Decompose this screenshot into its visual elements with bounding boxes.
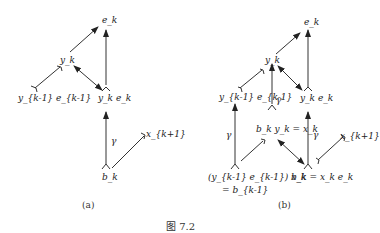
node-ykek-b: y_k e_k xyxy=(300,94,333,103)
line-yk1ek1-yk-b xyxy=(240,70,262,88)
node-bk-eq-b: b_k = x_k e_k xyxy=(291,173,353,182)
caption-b: (b) xyxy=(278,200,291,210)
split-bk-b xyxy=(304,164,312,169)
line-left-bottom-to-tick-b xyxy=(241,141,263,161)
split-ykek-a xyxy=(102,87,110,91)
node-xk1-a: x_{k+1} xyxy=(146,130,186,139)
split-bkyk-b xyxy=(268,105,276,110)
figure-caption: 图 7.2 xyxy=(166,218,195,233)
arrow-yk-to-ek-a xyxy=(70,27,98,52)
split-ykek-b xyxy=(304,87,312,91)
caption-a: (a) xyxy=(82,200,94,210)
line-yk1ek1-yk-a xyxy=(35,67,60,88)
arrow-yk-to-ek-b xyxy=(276,33,300,54)
gamma-a: γ xyxy=(111,137,116,146)
node-ek-b: e_k xyxy=(304,18,319,27)
arrow-yk-ykek-a xyxy=(74,66,102,90)
gamma-left-b: γ xyxy=(226,131,231,140)
gamma-mid-b: γ xyxy=(276,96,281,105)
line-bk-xk1-a xyxy=(112,136,144,168)
node-ek-a: e_k xyxy=(102,16,117,25)
node-bk-a: b_k xyxy=(102,173,118,182)
gamma-right-b: γ xyxy=(313,131,318,140)
node-left-bottom-2-b: = b_{k-1} xyxy=(222,186,268,195)
arrow-bkyk-bk-b xyxy=(278,140,304,164)
split-left-bottom-b xyxy=(231,164,239,169)
split-bk-a xyxy=(102,164,110,169)
node-yk-a: y_k xyxy=(60,56,75,65)
node-bkyk-b: b_k y_k = x_k xyxy=(256,125,318,134)
node-ykek-a: y_k e_k xyxy=(98,94,131,103)
node-xk1-b: x_{k+1} xyxy=(340,132,380,141)
node-yk1ek1-a: y_{k-1} e_{k-1} xyxy=(18,94,91,103)
node-yk-b: y_k xyxy=(265,56,280,65)
arrow-yk-ykek-b xyxy=(278,66,302,90)
